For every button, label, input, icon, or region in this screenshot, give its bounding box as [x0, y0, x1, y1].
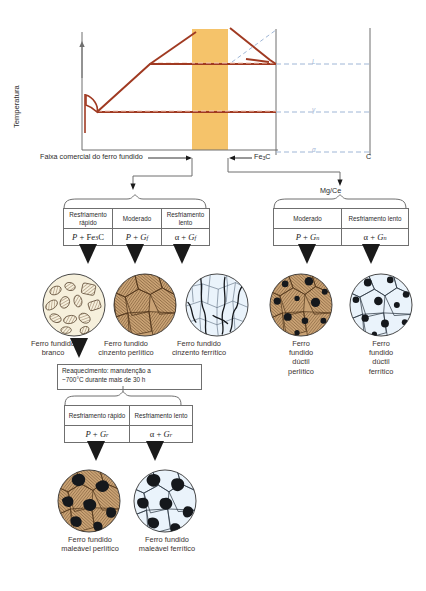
- reheat-group-brace: [57, 386, 207, 406]
- liquidus-left: [97, 64, 192, 112]
- bottom-col-malleable-pearlitic: Resfriamento rápido P + Gr: [65, 406, 130, 442]
- condition-label: Moderado: [113, 209, 161, 229]
- micrograph-gray-pearlitic: [112, 272, 178, 338]
- acm-line: [246, 59, 269, 62]
- phase-label: P + Gr: [65, 426, 129, 442]
- micrograph-malleable-pearlitic: [56, 468, 122, 534]
- caption-text: Ferro fundido maleável ferrítico: [139, 535, 195, 553]
- right-col-ductile-pearlitic: Moderado P + Gn: [274, 209, 342, 245]
- condition-label: Resfriamento rápido: [64, 209, 112, 229]
- phase-label: α + Gf: [162, 229, 209, 245]
- caption-ductile-pearlitic: Ferro fundido dúctil perlítico: [272, 339, 330, 376]
- arrow-to-ductile-ferritic: [362, 244, 380, 264]
- condition-label: Moderado: [274, 209, 341, 229]
- left-branch-path: [133, 158, 192, 186]
- phase-diagram: Temperatura Faixa comercial do ferro fun…: [0, 0, 426, 170]
- phase-label: P + Gn: [274, 229, 341, 245]
- arrow-to-malleable-pearlitic: [87, 441, 105, 461]
- left-branch-arrow: [130, 184, 135, 191]
- condition-label: Resfriamento lento: [130, 406, 192, 426]
- liquidus-right: [230, 28, 276, 64]
- solvus-right: [240, 64, 276, 88]
- phase-label: P + Gf: [113, 229, 161, 245]
- arrow-to-gray-pearlitic: [126, 244, 144, 264]
- bottom-col-malleable-ferritic: Resfriamento lento α + Gr: [130, 406, 192, 442]
- micrograph-gray-ferritic: [184, 272, 250, 338]
- arrow-to-gray-ferritic: [173, 244, 191, 264]
- caption-malleable-ferritic: Ferro fundido maleável ferrítico: [128, 535, 206, 553]
- top-col-gray-pearlitic: Moderado P + Gf: [113, 209, 162, 245]
- caption-text: Ferro fundido dúctil perlítico: [288, 339, 314, 376]
- phase-label: P + Fe3C: [64, 229, 112, 245]
- micrograph-ductile-pearlitic: [268, 272, 334, 338]
- right-group-arrows: [270, 244, 410, 270]
- liquidus-upper-left: [150, 32, 196, 64]
- commercial-range-band: [192, 29, 228, 150]
- bottom-group-arrows: [60, 441, 210, 467]
- phase-label: α + Gr: [130, 426, 192, 442]
- arrow-to-ductile-pearlitic: [298, 244, 316, 264]
- right-col-ductile-ferritic: Resfriamento lento α + Gn: [342, 209, 408, 245]
- arrow-to-white-iron: [79, 244, 97, 264]
- condition-label: Resfriamento lento: [342, 209, 408, 229]
- y-axis-arrow-head: [79, 41, 84, 47]
- micrograph-malleable-ferritic: [132, 468, 198, 534]
- arrow-to-reheat: [70, 338, 88, 358]
- right-branch-path: [228, 158, 340, 182]
- condition-label: Resfriamento rápido: [65, 406, 129, 426]
- cast-iron-classification-figure: Temperatura Faixa comercial do ferro fun…: [0, 0, 426, 591]
- y-axis-label: Temperatura: [12, 85, 21, 128]
- reheat-note-text: Reaquecimento: manutenção a ~700°C duran…: [62, 367, 151, 383]
- caption-text: Ferro fundido dúctil ferrítico: [369, 339, 394, 376]
- arrow-to-malleable-ferritic: [146, 441, 164, 461]
- dashed-label-gamma: γ: [312, 106, 315, 113]
- dashed-label-L: L: [312, 58, 316, 65]
- phase-label: α + Gn: [342, 229, 408, 245]
- condition-label: Resfriamento lento: [162, 209, 209, 229]
- micrograph-ductile-ferritic: [348, 272, 414, 338]
- caption-ductile-ferritic: Ferro fundido dúctil ferrítico: [352, 339, 410, 376]
- caption-text: Ferro fundido cinzento perlítico: [98, 339, 153, 357]
- phase-diagram-canvas: [0, 0, 426, 170]
- top-condition-table: Resfriamento rápido P + Fe3C Moderado P …: [63, 208, 210, 246]
- top-group-arrows: [60, 244, 210, 270]
- top-col-gray-ferritic: Resfriamento lento α + Gf: [162, 209, 209, 245]
- caption-text: Ferro fundido maleável perlítico: [61, 535, 119, 553]
- top-col-white-iron: Resfriamento rápido P + Fe3C: [64, 209, 113, 245]
- micrograph-white-cast-iron: [41, 272, 107, 338]
- bottom-condition-table: Resfriamento rápido P + Gr Resfriamento …: [64, 405, 193, 443]
- caption-malleable-pearlitic: Ferro fundido maleável perlítico: [52, 535, 128, 553]
- delta-ferrite-loop: [86, 95, 97, 112]
- caption-text: Ferro fundido cinzento ferrítico: [172, 339, 226, 357]
- caption-gray-ferritic: Ferro fundido cinzento ferrítico: [160, 339, 238, 357]
- right-condition-table: Moderado P + Gn Resfriamento lento α + G…: [273, 208, 409, 246]
